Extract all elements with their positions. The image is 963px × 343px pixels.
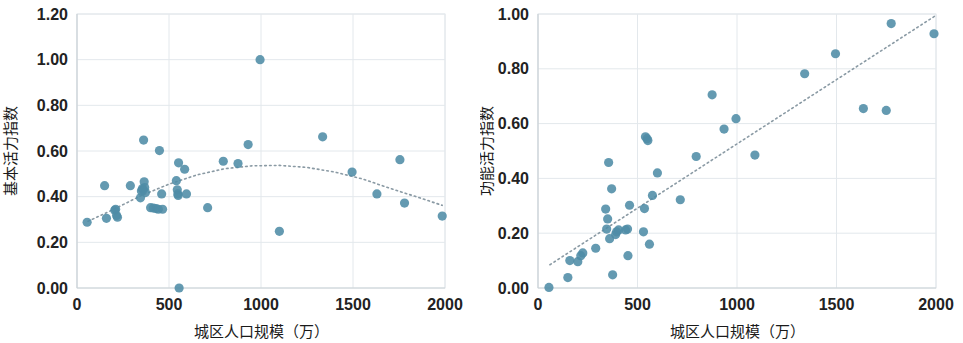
data-point — [158, 205, 167, 214]
data-point — [544, 283, 553, 292]
data-point — [882, 106, 891, 115]
data-point — [653, 168, 662, 177]
data-point — [255, 55, 264, 64]
data-point — [113, 213, 122, 222]
data-point — [372, 189, 381, 198]
data-point — [608, 270, 617, 279]
figure-container: 0.000.200.400.600.801.001.20050010001500… — [0, 0, 963, 343]
y-axis-title: 基本活力指数 — [2, 106, 19, 196]
data-point — [887, 19, 896, 28]
functional-vitality-scatter-plot: 0.000.200.400.600.801.000500100015002000… — [480, 0, 963, 343]
data-point — [395, 155, 404, 164]
data-point — [174, 191, 183, 200]
y-tick-label: 1.00 — [498, 6, 529, 23]
data-point — [438, 211, 447, 220]
data-point — [645, 240, 654, 249]
x-tick-label: 1500 — [335, 296, 371, 313]
data-point — [100, 181, 109, 190]
y-tick-label: 0.40 — [37, 188, 68, 205]
x-tick-label: 2000 — [427, 296, 463, 313]
data-point — [750, 151, 759, 160]
basic-vitality-scatter-plot: 0.000.200.400.600.801.001.20050010001500… — [0, 0, 480, 343]
data-point — [203, 203, 212, 212]
data-point — [625, 201, 634, 210]
data-point — [318, 132, 327, 141]
data-point — [275, 227, 284, 236]
data-point — [607, 184, 616, 193]
data-point — [102, 214, 111, 223]
chart-panel-functional-vitality: 0.000.200.400.600.801.000500100015002000… — [480, 0, 963, 343]
data-point — [400, 198, 409, 207]
y-tick-label: 1.20 — [37, 6, 68, 23]
data-point — [139, 135, 148, 144]
y-tick-label: 0.80 — [498, 60, 529, 77]
data-point — [639, 227, 648, 236]
data-point — [603, 214, 612, 223]
chart-panel-basic-vitality: 0.000.200.400.600.801.001.20050010001500… — [0, 0, 480, 343]
x-tick-label: 1000 — [243, 296, 279, 313]
data-point — [601, 204, 610, 213]
data-point — [708, 90, 717, 99]
y-tick-label: 0.40 — [498, 170, 529, 187]
data-point — [929, 29, 938, 38]
data-point — [692, 152, 701, 161]
x-tick-label: 0 — [73, 296, 82, 313]
data-point — [83, 218, 92, 227]
data-point — [155, 146, 164, 155]
y-tick-label: 1.00 — [37, 51, 68, 68]
data-point — [233, 159, 242, 168]
data-point — [719, 124, 728, 133]
data-point — [565, 256, 574, 265]
data-point — [157, 189, 166, 198]
data-point — [563, 273, 572, 282]
x-tick-label: 500 — [156, 296, 183, 313]
y-tick-label: 0.20 — [37, 234, 68, 251]
data-point — [591, 244, 600, 253]
data-point — [648, 191, 657, 200]
data-point — [141, 188, 150, 197]
x-tick-label: 1000 — [719, 296, 755, 313]
data-point — [831, 49, 840, 58]
y-tick-label: 0.00 — [37, 280, 68, 297]
data-point — [859, 104, 868, 113]
y-axis-title: 功能活力指数 — [480, 106, 495, 196]
data-point — [602, 224, 611, 233]
y-tick-label: 0.60 — [37, 143, 68, 160]
data-point — [604, 158, 613, 167]
data-point — [180, 165, 189, 174]
x-tick-label: 0 — [534, 296, 543, 313]
y-tick-label: 0.80 — [37, 97, 68, 114]
data-point — [731, 114, 740, 123]
y-tick-label: 0.00 — [498, 280, 529, 297]
x-axis-title: 城区人口规模（万） — [670, 323, 805, 340]
data-point — [640, 204, 649, 213]
data-point — [175, 283, 184, 292]
data-point — [578, 248, 587, 257]
data-point — [643, 136, 652, 145]
x-tick-label: 2000 — [918, 296, 954, 313]
data-point — [244, 140, 253, 149]
x-tick-label: 1500 — [819, 296, 855, 313]
x-tick-label: 500 — [624, 296, 651, 313]
data-point — [219, 157, 228, 166]
x-axis-title: 城区人口规模（万） — [194, 323, 329, 340]
data-point — [347, 167, 356, 176]
data-point — [623, 251, 632, 260]
y-tick-label: 0.20 — [498, 225, 529, 242]
data-point — [126, 181, 135, 190]
data-point — [676, 195, 685, 204]
data-point — [182, 189, 191, 198]
data-point — [172, 176, 181, 185]
data-point — [623, 224, 632, 233]
data-point — [800, 69, 809, 78]
y-tick-label: 0.60 — [498, 115, 529, 132]
